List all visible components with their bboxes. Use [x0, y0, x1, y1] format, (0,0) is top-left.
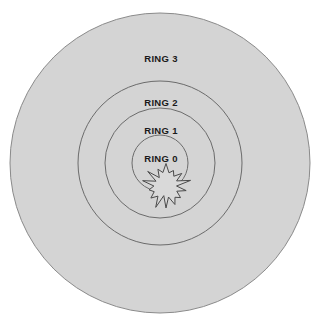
rings-svg-canvas: RING 3 RING 2 RING 1 RING 0: [0, 0, 327, 325]
ring-1-label: RING 1: [144, 125, 178, 136]
ring-3-label: RING 3: [144, 53, 177, 64]
ring-diagram: RING 3 RING 2 RING 1 RING 0: [0, 0, 327, 325]
ring-0-label: RING 0: [144, 153, 177, 164]
ring-2-label: RING 2: [144, 97, 177, 108]
